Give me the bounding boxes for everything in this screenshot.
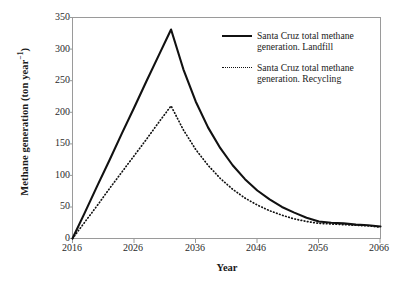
legend-label-recycling: Santa Cruz total methane generation. Rec… <box>257 62 354 85</box>
legend-label-recycling-line1: Santa Cruz total methane <box>257 62 354 73</box>
legend-label-landfill-line2: generation. Landfill <box>257 41 333 52</box>
legend-label-recycling-line2: generation. Recycling <box>257 73 341 84</box>
legend-line-dotted-icon <box>222 62 252 73</box>
legend-item-recycling: Santa Cruz total methane generation. Rec… <box>222 62 394 85</box>
series-line-recycling <box>73 106 381 239</box>
legend-item-landfill: Santa Cruz total methane generation. Lan… <box>222 30 394 53</box>
methane-generation-chart: Methane generation (ton year−1) 350 300 … <box>0 0 405 283</box>
legend-label-landfill-line1: Santa Cruz total methane <box>257 30 354 41</box>
legend-line-solid-icon <box>222 30 252 41</box>
y-tick-marks <box>68 18 73 239</box>
x-tick-marks <box>73 239 381 244</box>
legend-label-landfill: Santa Cruz total methane generation. Lan… <box>257 30 354 53</box>
chart-legend: Santa Cruz total methane generation. Lan… <box>222 30 394 94</box>
